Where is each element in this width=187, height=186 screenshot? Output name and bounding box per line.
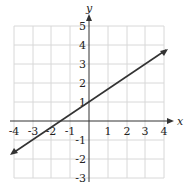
svg-text:2: 2	[79, 77, 86, 90]
svg-text:-3: -3	[75, 172, 86, 185]
svg-text:3: 3	[79, 58, 86, 71]
line-arrow-start-icon	[10, 148, 18, 155]
axes	[10, 18, 170, 182]
svg-text:2: 2	[124, 125, 131, 138]
svg-text:-4: -4	[9, 125, 20, 138]
y-axis-arrow-icon	[86, 14, 92, 21]
svg-text:-1: -1	[65, 125, 76, 138]
x-axis-label: x	[177, 115, 184, 128]
svg-text:-2: -2	[75, 153, 86, 166]
svg-text:1: 1	[105, 125, 112, 138]
svg-text:4: 4	[161, 125, 168, 138]
x-axis-arrow-icon	[167, 118, 174, 124]
svg-text:-1: -1	[75, 134, 86, 147]
x-tick-labels: -4 -3 -2 -1 1 2 3 4	[9, 125, 168, 138]
svg-text:4: 4	[79, 39, 86, 52]
y-axis-label: y	[85, 2, 93, 15]
svg-text:3: 3	[142, 125, 149, 138]
line-graph: x y -4 -3 -2 -1 1 2 3 4 5 4 3 2 1 -1 -2 …	[0, 0, 187, 186]
svg-text:5: 5	[79, 20, 86, 33]
